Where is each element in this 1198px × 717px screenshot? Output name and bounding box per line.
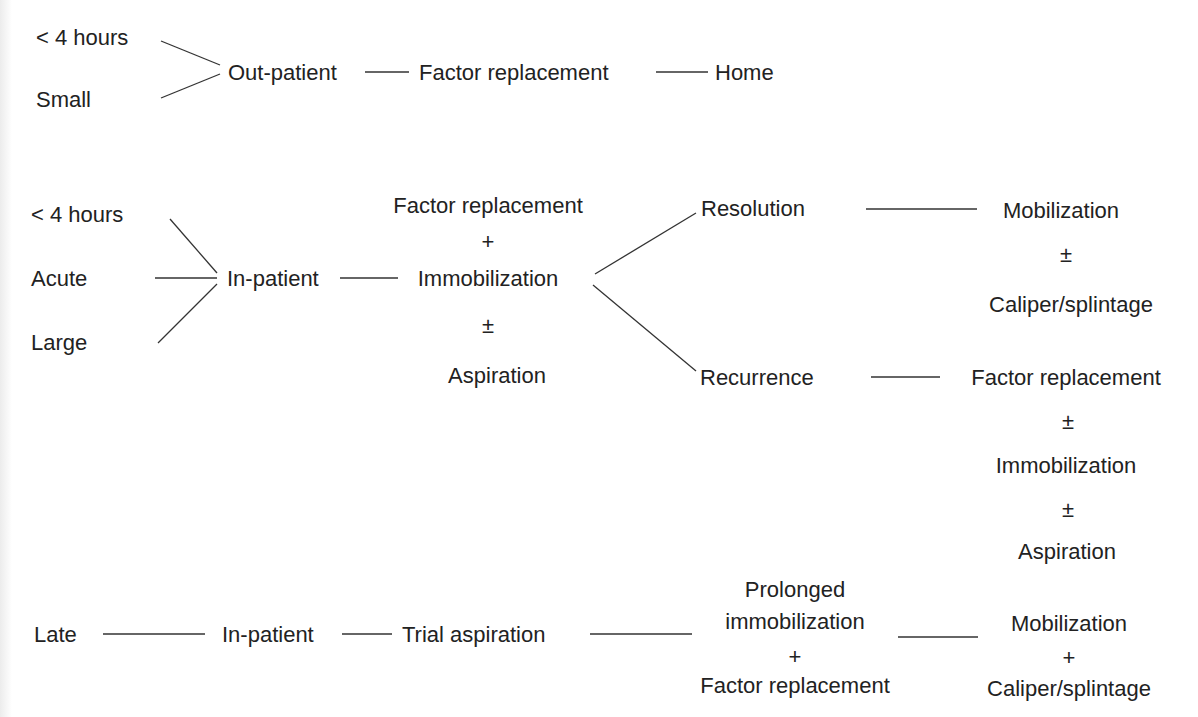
next-caliper-splintage: Caliper/splintage <box>989 293 1153 317</box>
next-factor-replacement: Factor replacement <box>971 366 1161 390</box>
criterion-small: Small <box>36 88 91 112</box>
outcome-caliper-splintage: Caliper/splintage <box>987 677 1151 701</box>
outcome-recurrence: Recurrence <box>700 366 814 390</box>
treatment-aspiration: Aspiration <box>448 364 546 388</box>
setting-in-patient: In-patient <box>227 267 319 291</box>
plus-minus-symbol: ± <box>482 314 494 338</box>
criterion-under-4-hours: < 4 hours <box>36 26 128 50</box>
treatment-immobilization: Immobilization <box>418 267 559 291</box>
outcome-mobilization: Mobilization <box>1011 612 1127 636</box>
outcome-home: Home <box>715 61 774 85</box>
plus-symbol: + <box>1063 646 1076 670</box>
setting-out-patient: Out-patient <box>228 61 337 85</box>
treatment-factor-replacement: Factor replacement <box>700 674 890 698</box>
treatment-factor-replacement: Factor replacement <box>393 194 583 218</box>
plus-symbol: + <box>482 230 495 254</box>
criterion-large: Large <box>31 331 87 355</box>
treatment-immobilization: immobilization <box>725 610 864 634</box>
step-trial-aspiration: Trial aspiration <box>402 623 545 647</box>
plus-minus-symbol: ± <box>1062 498 1074 522</box>
next-immobilization: Immobilization <box>996 454 1137 478</box>
next-mobilization: Mobilization <box>1003 199 1119 223</box>
criterion-under-4-hours: < 4 hours <box>31 203 123 227</box>
setting-in-patient: In-patient <box>222 623 314 647</box>
treatment-prolonged: Prolonged <box>745 578 845 602</box>
next-aspiration: Aspiration <box>1018 540 1116 564</box>
criterion-acute: Acute <box>31 267 87 291</box>
outcome-resolution: Resolution <box>701 197 805 221</box>
criterion-late: Late <box>34 623 77 647</box>
connector-lines <box>0 0 1198 717</box>
plus-symbol: + <box>789 645 802 669</box>
plus-minus-symbol: ± <box>1060 243 1072 267</box>
treatment-factor-replacement: Factor replacement <box>419 61 609 85</box>
plus-minus-symbol: ± <box>1062 410 1074 434</box>
